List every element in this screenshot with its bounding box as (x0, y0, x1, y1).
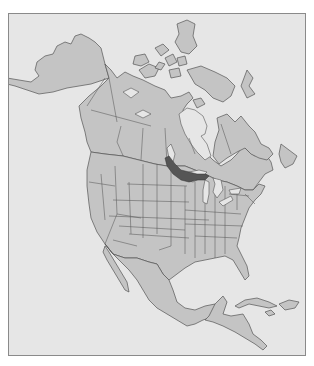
cuba (235, 298, 277, 308)
arctic-island (165, 54, 177, 66)
banks-island (133, 54, 149, 66)
southampton-island (193, 98, 205, 108)
arctic-island (155, 62, 165, 70)
greenland-edge (241, 70, 255, 98)
alaska (9, 34, 109, 94)
north-america-map (9, 14, 306, 356)
jamaica (265, 310, 275, 316)
map-frame (8, 13, 306, 356)
arctic-island (169, 68, 181, 78)
ellesmere-island (175, 20, 197, 54)
hispaniola (279, 300, 299, 310)
newfoundland (279, 144, 297, 168)
baffin-island (187, 66, 235, 102)
arctic-island (155, 44, 169, 56)
arctic-island (177, 56, 187, 66)
